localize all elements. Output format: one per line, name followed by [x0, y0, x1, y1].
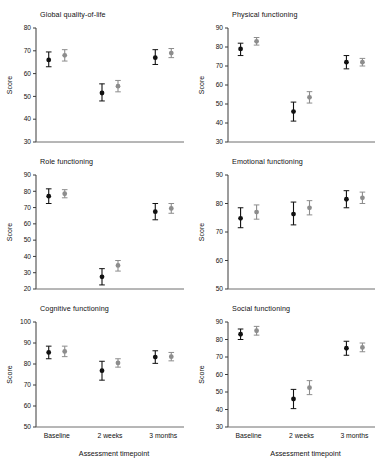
marker [46, 58, 51, 63]
marker [238, 216, 243, 221]
data-point [254, 326, 260, 335]
marker [360, 60, 365, 65]
marker [116, 84, 121, 89]
data-point [307, 381, 313, 395]
data-point [291, 202, 297, 225]
plot-area: 2030405060708090Score [0, 155, 192, 303]
data-point [99, 361, 105, 380]
marker [153, 209, 158, 214]
y-tick-label: 90 [24, 171, 32, 178]
y-tick-label: 50 [216, 285, 224, 292]
y-tick-label: 30 [24, 269, 32, 276]
marker [153, 355, 158, 360]
data-point [360, 192, 366, 203]
y-tick-label: 50 [216, 388, 224, 395]
marker [100, 274, 105, 279]
y-tick-label: 90 [24, 339, 32, 346]
plot-area: 5060708090100ScoreBaseline2 weeks3 month… [0, 302, 192, 441]
x-tick-label: 3 months [149, 432, 178, 439]
data-point [360, 343, 366, 352]
y-tick-label: 50 [216, 100, 224, 107]
marker [360, 195, 365, 200]
data-point [62, 346, 68, 357]
data-point [115, 359, 121, 367]
y-tick-label: 60 [24, 402, 32, 409]
y-axis-label: Score [6, 223, 13, 241]
marker [254, 210, 259, 215]
marker [238, 332, 243, 337]
panel-social-functioning: Social functioning30405060708090ScoreBas… [192, 302, 383, 471]
marker [116, 361, 121, 366]
y-tick-label: 70 [24, 204, 32, 211]
panel-physical-functioning: Physical functioning30405060708090Score [192, 8, 383, 148]
y-tick-label: 80 [216, 336, 224, 343]
x-tick-label: 2 weeks [289, 432, 315, 439]
y-tick-label: 60 [216, 81, 224, 88]
data-point [99, 84, 105, 101]
x-tick-label: Baseline [44, 432, 70, 439]
y-axis-label: Score [198, 223, 205, 241]
data-point [168, 352, 174, 360]
y-tick-label: 80 [24, 24, 32, 31]
data-point [344, 341, 350, 355]
y-axis-label: Score [198, 365, 205, 383]
data-point [62, 50, 68, 61]
x-tick-label: 3 months [340, 432, 369, 439]
plot-area: 30405060708090ScoreBaseline2 weeks3 mont… [192, 302, 383, 441]
y-tick-label: 70 [216, 228, 224, 235]
marker [254, 39, 259, 44]
y-axis-label: Score [6, 365, 13, 383]
marker [100, 368, 105, 373]
marker [62, 53, 67, 58]
x-tick-label: 2 weeks [98, 432, 124, 439]
data-point [291, 102, 297, 121]
marker [169, 354, 174, 359]
data-point [254, 205, 260, 219]
data-point [168, 49, 174, 58]
data-point [62, 190, 68, 198]
data-point [46, 346, 52, 359]
marker [344, 60, 349, 65]
y-tick-label: 50 [24, 93, 32, 100]
y-tick-label: 90 [216, 171, 224, 178]
data-point [46, 189, 52, 204]
data-point [254, 38, 260, 46]
data-point [238, 329, 244, 340]
y-tick-label: 40 [24, 253, 32, 260]
data-point [168, 204, 174, 214]
plot-area: 5060708090Score [192, 155, 383, 303]
y-tick-label: 80 [24, 188, 32, 195]
marker [307, 205, 312, 210]
marker [307, 95, 312, 100]
data-point [46, 52, 52, 67]
y-tick-label: 50 [24, 236, 32, 243]
y-tick-label: 40 [24, 115, 32, 122]
panel-cognitive-functioning: Cognitive functioning5060708090100ScoreB… [0, 302, 192, 471]
marker [100, 91, 105, 96]
marker [169, 51, 174, 56]
data-point [344, 191, 350, 208]
panel-role-functioning: Role functioning2030405060708090Score [0, 155, 192, 295]
y-tick-label: 80 [24, 360, 32, 367]
marker [169, 206, 174, 211]
marker [46, 350, 51, 355]
marker [62, 349, 67, 354]
y-axis-label: Score [198, 76, 205, 94]
y-tick-label: 70 [216, 353, 224, 360]
data-point [152, 351, 158, 364]
marker [254, 328, 259, 333]
data-point [152, 50, 158, 65]
data-point [344, 56, 350, 69]
panel-emotional-functioning: Emotional functioning5060708090Score [192, 155, 383, 295]
marker [116, 263, 121, 268]
y-tick-label: 60 [216, 257, 224, 264]
y-tick-label: 60 [24, 70, 32, 77]
y-tick-label: 70 [24, 381, 32, 388]
y-tick-label: 40 [216, 119, 224, 126]
data-point [115, 261, 121, 272]
marker [291, 212, 296, 217]
y-tick-label: 40 [216, 406, 224, 413]
data-point [307, 92, 313, 103]
data-point [291, 389, 297, 408]
y-tick-label: 20 [24, 285, 32, 292]
